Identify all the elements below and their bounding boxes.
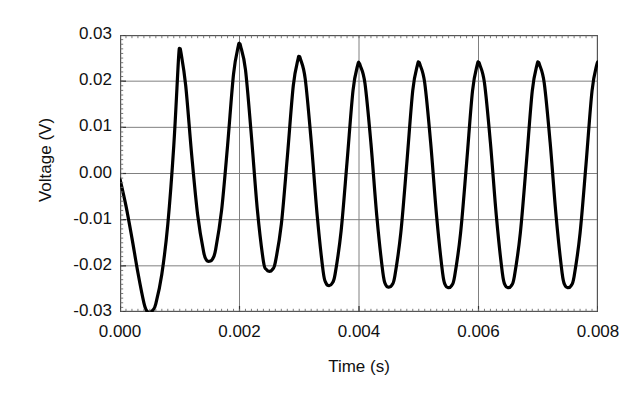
x-tick-label: 0.006 bbox=[434, 322, 524, 342]
x-tick-label: 0.002 bbox=[195, 322, 285, 342]
x-tick-label: 0.008 bbox=[553, 322, 636, 342]
y-axis-minor-tick-marks bbox=[121, 35, 124, 312]
x-tick-label: 0.004 bbox=[314, 322, 404, 342]
chart-figure: Voltage (V) 0.030.020.010.00-0.01-0.02-0… bbox=[0, 0, 636, 400]
plot-area bbox=[120, 35, 598, 312]
x-axis-title: Time (s) bbox=[120, 357, 598, 377]
waveform-svg bbox=[120, 35, 598, 312]
x-tick-label: 0.000 bbox=[75, 322, 165, 342]
